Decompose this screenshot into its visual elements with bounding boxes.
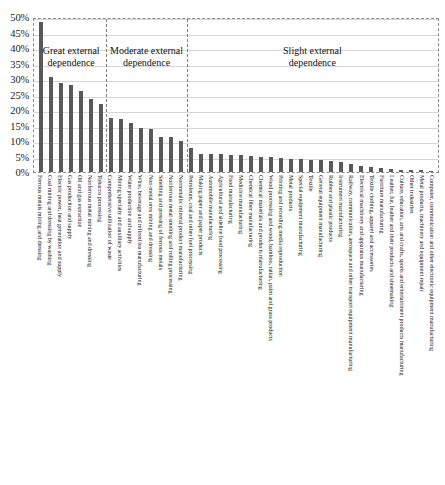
bar-slot [86,19,96,172]
x-axis-label-slot: Wine, beverage and refined tea manufactu… [135,174,145,479]
x-axis-label: Metal products, machinery and equipment … [419,175,425,292]
x-axis-label-slot: Ferrous metals mining and dressing [35,174,45,479]
bar [209,154,212,172]
bar [269,157,272,172]
bar-slot [266,19,276,172]
bar-slot [156,19,166,172]
x-axis-label: Electric power, heat generation and supp… [57,175,63,277]
bar-chart: 50%45%40%35%30%25%20%15%10%5%0% Great ex… [0,0,445,485]
bar [309,160,312,172]
bar-slot [46,19,56,172]
x-axis-label: Petroleum, coal and other fuel processin… [188,175,194,274]
x-axis-label-slot: Electric power, heat generation and supp… [55,174,65,479]
plot-area: Great externaldependenceModerate externa… [33,18,439,173]
bar-slot [296,19,306,172]
bar [139,128,142,172]
x-axis-label-slot: Furniture manufacturing [377,174,387,479]
x-axis-label: Electrical machinery and apparatus manuf… [358,175,364,295]
x-axis-label-slot: Computer, communication and other electr… [427,174,437,479]
bar [89,99,92,172]
x-axis-label-slot: Nonferrous metal mining and dressing [85,174,95,479]
x-axis-label: Printing and recording media reproductio… [278,175,284,277]
x-axis-label-slot: Metal products, machinery and equipment … [417,174,427,479]
bar [289,159,292,172]
bar [419,170,422,172]
x-axis-label-slot: Coal mining and dressing by washing [45,174,55,479]
x-axis-label: Special equipment manufacturing [298,175,304,256]
x-axis-label-slot: Textile [306,174,316,479]
bar-series [34,19,438,172]
bar [229,155,232,172]
x-axis-label: Making paper and paper products [198,175,204,255]
y-axis-tick: 25% [10,91,29,101]
x-axis-label-slot: Food manufacturing [226,174,236,479]
x-axis-label: Oil and gas extraction [77,175,83,228]
bar [69,85,72,172]
bar [349,164,352,172]
x-axis-label-slot: Making paper and paper products [196,174,206,479]
x-axis-label-slot: Railway, communication, aerospace and ot… [346,174,356,479]
x-axis-label-slot: General equipment manufacturing [316,174,326,479]
x-axis-label-slot: Leather, fur, feather and their products… [387,174,397,479]
bar-slot [416,19,426,172]
y-axis: 50%45%40%35%30%25%20%15%10%5%0% [0,18,31,173]
x-axis-label-slot: Chemical materials and products manufact… [256,174,266,479]
bar [199,154,202,172]
x-axis-label-slot: Instrument manufacturing [336,174,346,479]
x-axis-label-slot: Gas production and supply [65,174,75,479]
bar-slot [406,19,416,172]
x-axis-label: Other industries [409,175,415,213]
x-axis-label: Chemical fiber manufacturing [248,175,254,247]
bar-slot [226,19,236,172]
x-axis-label-slot: Automobile manufacturing [206,174,216,479]
bar [249,156,252,172]
x-axis-label-slot: Printing and recording media reproductio… [276,174,286,479]
x-axis-label-slot: Nonferrous metal smelting and rolling pr… [166,174,176,479]
bar [169,137,172,172]
x-axis-label: Comprehensive utilization of waste [107,175,113,260]
bar [59,83,62,172]
bar [359,166,362,172]
x-axis-label-slot: Petroleum, coal and other fuel processin… [186,174,196,479]
bar-slot [106,19,116,172]
x-axis-label-slot: Wood processing and wood, bamboo, rattan… [266,174,276,479]
x-axis-label-slot: Comprehensive utilization of waste [105,174,115,479]
x-axis-label: Nonferrous metal smelting and rolling pr… [168,175,174,294]
y-axis-tick: 45% [10,29,29,39]
x-axis-label-slot: Medicine manufacturing [236,174,246,479]
x-axis-label: Instrument manufacturing [338,175,344,237]
bar-slot [186,19,196,172]
bar [379,168,382,172]
x-axis-label-slot: Special equipment manufacturing [296,174,306,479]
bar-slot [146,19,156,172]
bar [339,162,342,172]
bar [319,160,322,172]
bar-slot [396,19,406,172]
bar [369,167,372,172]
bar-slot [196,19,206,172]
bar [329,161,332,172]
bar-slot [306,19,316,172]
x-axis-label-slot: Metal products [286,174,296,479]
x-axis-label: Food manufacturing [228,175,234,224]
bar [239,155,242,172]
x-axis-label: Water production and supply [127,175,133,244]
x-axis-label-slot: Chemical fiber manufacturing [246,174,256,479]
bar [129,123,132,172]
bar [149,129,152,172]
x-axis-label: Wine, beverage and refined tea manufactu… [137,175,143,286]
x-axis-label-slot: Electrical machinery and apparatus manuf… [357,174,367,479]
bar-slot [426,19,436,172]
bar-slot [246,19,256,172]
bar [429,171,432,172]
bar [109,118,112,172]
y-axis-tick: 35% [10,60,29,70]
bar [279,158,282,172]
bar-slot [386,19,396,172]
bar [259,157,262,172]
x-axis-label: Smelting and pressing of ferrous metals [158,175,164,270]
bar [159,137,162,172]
bar-slot [346,19,356,172]
x-axis-label: Non-metal ores mining and dressing [147,175,153,262]
x-axis-label-slot: Mining specialty and auxiliary activitie… [115,174,125,479]
